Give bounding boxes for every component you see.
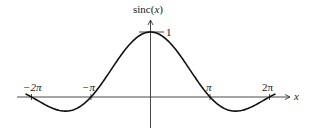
x-axis-label: x (294, 91, 299, 102)
y-tick-label-1: 1 (166, 27, 172, 38)
x-tick-label-neg2pi: −2π (23, 82, 41, 93)
x-tick-label-2pi: 2π (262, 82, 273, 93)
x-tick-label-pi: π (206, 82, 212, 93)
x-tick-label-negpi: −π (82, 82, 95, 93)
y-axis-label: sinc(x) (133, 4, 163, 15)
sinc-plot (0, 0, 315, 130)
